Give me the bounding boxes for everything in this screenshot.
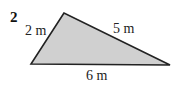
side-label-right: 5 m xyxy=(113,21,135,36)
triangle-shape xyxy=(31,13,170,65)
problem-number: 2 xyxy=(10,9,18,25)
side-label-left: 2 m xyxy=(25,23,47,38)
side-label-bottom: 6 m xyxy=(86,68,108,83)
triangle-diagram: 2 2 m 5 m 6 m xyxy=(0,0,178,90)
